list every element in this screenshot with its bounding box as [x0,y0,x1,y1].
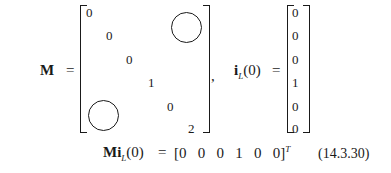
vector-iL-label: iL(0) [234,62,261,81]
comma: , [211,68,215,85]
matrix-M-entry-4: 1 [148,75,155,91]
vector-right-bracket [303,5,310,133]
equals-sign-3: = [158,144,166,161]
equation-number: (14.3.30) [318,146,369,162]
matrix-M-entry-3: 0 [126,52,133,68]
equals-sign: = [66,62,74,79]
vector-entry-6: 0 [292,121,299,137]
vector-entry-3: 0 [292,52,299,68]
product-lhs: MiL(0) [103,144,144,163]
product-argument: (0) [126,144,144,160]
matrix-M-entry-6: 2 [188,121,195,137]
matrix-M-entry-2: 0 [106,28,113,44]
vector-entry-5: 0 [292,99,299,115]
transpose-superscript: T [285,144,290,154]
matrix-M-left-bracket [80,5,87,133]
product-rhs-row-vector: [0 0 0 1 0 0]T [174,144,290,162]
vector-entry-2: 0 [292,28,299,44]
upper-zero-block-circle-icon [171,12,202,43]
product-Mi-symbol: Mi [103,144,121,160]
vector-entry-4: 1 [292,75,299,91]
matrix-M-entry-5: 0 [167,99,174,115]
matrix-M-symbol: M [40,62,54,79]
equals-sign-2: = [272,62,280,79]
matrix-M-entry-1: 0 [86,5,93,21]
product-rhs-values: [0 0 0 1 0 0] [174,145,285,161]
lower-zero-block-circle-icon [88,100,119,131]
matrix-M-right-bracket [203,5,210,133]
vector-entry-1: 0 [292,5,299,21]
vector-i-argument: (0) [243,62,261,78]
